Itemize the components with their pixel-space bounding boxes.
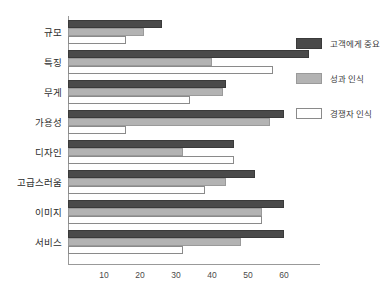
bar bbox=[68, 200, 284, 208]
bar bbox=[68, 208, 262, 216]
legend-label: 경쟁자 인식 bbox=[330, 107, 372, 119]
bar bbox=[68, 88, 223, 96]
legend-swatch-icon bbox=[296, 38, 322, 49]
bar bbox=[68, 58, 212, 66]
bar bbox=[68, 80, 226, 88]
category-label: 가용성 bbox=[0, 118, 62, 128]
bar bbox=[68, 178, 226, 186]
plot-area: 102030405060 bbox=[68, 16, 320, 264]
legend-swatch-icon bbox=[296, 73, 322, 84]
category-label: 서비스 bbox=[0, 238, 62, 248]
x-tick-label: 50 bbox=[236, 270, 260, 280]
bar bbox=[68, 170, 255, 178]
bar bbox=[68, 66, 273, 74]
x-axis-line bbox=[68, 264, 320, 265]
bar bbox=[68, 148, 183, 156]
x-tick-label: 60 bbox=[272, 270, 296, 280]
bar bbox=[68, 110, 284, 118]
category-label: 고급스러움 bbox=[0, 178, 62, 188]
x-tick-label: 20 bbox=[128, 270, 152, 280]
bar bbox=[68, 36, 126, 44]
legend-item: 성과 인식 bbox=[296, 71, 364, 85]
bar bbox=[68, 216, 262, 224]
bar bbox=[68, 28, 144, 36]
category-label: 규모 bbox=[0, 28, 62, 38]
category-label: 특징 bbox=[0, 58, 62, 68]
bar bbox=[68, 246, 183, 254]
x-tick-label: 10 bbox=[92, 270, 116, 280]
legend-item: 경쟁자 인식 bbox=[296, 106, 372, 120]
bar bbox=[68, 20, 162, 28]
bar bbox=[68, 126, 126, 134]
legend-item: 고객에게 중요 bbox=[296, 36, 380, 50]
bar bbox=[68, 50, 309, 58]
category-label: 무게 bbox=[0, 88, 62, 98]
legend-label: 고객에게 중요 bbox=[330, 37, 380, 49]
legend-label: 성과 인식 bbox=[330, 72, 364, 84]
bar-chart: 102030405060 규모특징무게가용성디자인고급스러움이미지서비스 고객에… bbox=[0, 0, 386, 297]
legend-swatch-icon bbox=[296, 108, 322, 119]
bar bbox=[68, 186, 205, 194]
x-tick-label: 40 bbox=[200, 270, 224, 280]
bar bbox=[68, 96, 190, 104]
bar bbox=[68, 230, 284, 238]
bar bbox=[68, 156, 234, 164]
category-label: 이미지 bbox=[0, 208, 62, 218]
bar bbox=[68, 238, 241, 246]
category-label: 디자인 bbox=[0, 148, 62, 158]
x-tick-label: 30 bbox=[164, 270, 188, 280]
bar bbox=[68, 118, 270, 126]
bar bbox=[68, 140, 234, 148]
